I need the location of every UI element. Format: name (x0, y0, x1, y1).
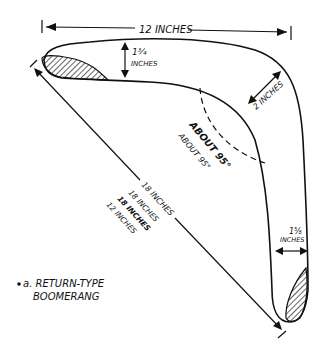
hatched-section-right (286, 268, 307, 321)
hatched-section-left (42, 56, 108, 80)
arm-width-right-unit: INCHES (280, 236, 304, 244)
arm-width-right-dimension (275, 247, 308, 255)
arm-width-left-unit: INCHES (131, 60, 158, 68)
arm-width-left-value: 1¾ (132, 47, 147, 57)
arm-width-left-dimension (121, 42, 129, 78)
arm-width-right-value: 1⅝ (289, 227, 302, 236)
caption-line-2: BOOMERANG (33, 291, 100, 302)
caption-line-1: a. RETURN-TYPE (23, 278, 105, 289)
boomerang-diagram: 12 INCHES 1¾ INCHES 2 INCHES ABOUT 95° A… (0, 0, 329, 358)
caption-bullet (17, 282, 21, 286)
span-width-label: 12 INCHES (139, 24, 193, 35)
